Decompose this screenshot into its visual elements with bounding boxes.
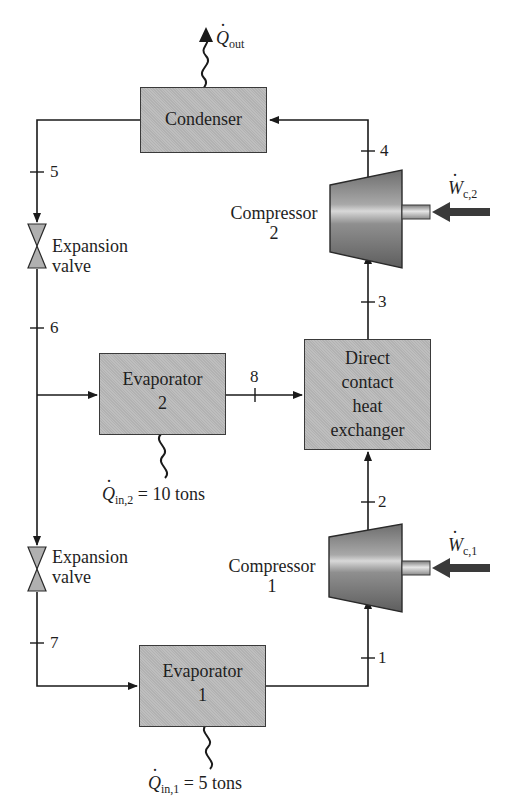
expansion-valve-2-label-line-1: Expansion xyxy=(52,547,128,567)
expansion-valve-1-label-line-1: Expansion xyxy=(52,236,128,256)
q-in1-label: Qin,1 = 5 tons xyxy=(148,773,242,799)
evaporator-1-number: 1 xyxy=(140,684,265,706)
direct-contact-heat-exchanger-box: Direct contact heat exchanger xyxy=(304,339,431,450)
hx-label-line-1: Direct xyxy=(305,347,430,369)
q-in1-value: = 5 tons xyxy=(184,773,242,793)
state-point-4: 4 xyxy=(380,141,389,161)
q-in2-symbol: Q xyxy=(102,484,115,504)
q-out-label: Qout xyxy=(216,28,244,54)
w-c2-subscript: c,2 xyxy=(463,187,477,201)
compressor-2-label-line-1: Compressor xyxy=(222,203,326,223)
compressor-2-label: Compressor 2 xyxy=(222,203,326,243)
expansion-valve-2-icon xyxy=(28,547,46,591)
expansion-valve-1-label: Expansion valve xyxy=(52,236,128,276)
work-arrow-c1-icon xyxy=(432,558,490,578)
hx-label-line-3: heat xyxy=(305,395,430,417)
compressor-2-icon xyxy=(330,170,430,268)
expansion-valve-2-label: Expansion valve xyxy=(52,547,128,587)
state-point-3: 3 xyxy=(378,292,387,312)
state-point-5: 5 xyxy=(50,162,59,182)
compressor-1-label-line-1: Compressor xyxy=(220,556,324,576)
evaporator-2-label: Evaporator xyxy=(100,368,225,390)
state-point-7: 7 xyxy=(50,633,59,653)
state-point-1: 1 xyxy=(378,648,387,668)
compressor-1-label: Compressor 1 xyxy=(220,556,324,596)
evaporator-1-box: Evaporator 1 xyxy=(139,645,266,727)
expansion-valve-1-label-line-2: valve xyxy=(52,256,128,276)
w-c1-label: Wc,1 xyxy=(448,535,477,561)
expansion-valve-1-icon xyxy=(28,224,46,268)
line-4-to-condenser xyxy=(270,120,368,185)
evaporator-1-label: Evaporator xyxy=(140,660,265,682)
hx-label-line-4: exchanger xyxy=(305,419,430,441)
compressor-1-icon xyxy=(329,524,430,612)
line-1 xyxy=(266,600,368,686)
state-point-8: 8 xyxy=(250,367,259,387)
q-in1-symbol: Q xyxy=(148,773,161,793)
q-in2-subscript: in,2 xyxy=(115,493,133,507)
hx-label-line-2: contact xyxy=(305,371,430,393)
q-in1-subscript: in,1 xyxy=(161,782,179,796)
q-out-subscript: out xyxy=(229,37,244,51)
condenser-label: Condenser xyxy=(141,108,266,130)
q-out-symbol: Q xyxy=(216,28,229,48)
compressor-2-number: 2 xyxy=(222,223,326,243)
work-arrow-c2-icon xyxy=(432,202,490,222)
state-point-2: 2 xyxy=(378,492,387,512)
expansion-valve-2-label-line-2: valve xyxy=(52,567,128,587)
w-c1-subscript: c,1 xyxy=(463,544,477,558)
w-c1-symbol: W xyxy=(448,535,463,555)
state-point-6: 6 xyxy=(50,318,59,338)
q-in2-value: = 10 tons xyxy=(138,484,205,504)
evaporator-2-number: 2 xyxy=(100,392,225,414)
evaporator-2-box: Evaporator 2 xyxy=(99,353,226,435)
q-in2-label: Qin,2 = 10 tons xyxy=(102,484,205,510)
w-c2-symbol: W xyxy=(448,178,463,198)
w-c2-label: Wc,2 xyxy=(448,178,477,204)
compressor-1-number: 1 xyxy=(220,576,324,596)
condenser-box: Condenser xyxy=(140,87,267,153)
